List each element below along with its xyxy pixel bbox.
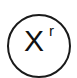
base-label: X [24,26,44,56]
exponent-label: r [49,23,54,38]
power-button[interactable]: X r [7,14,71,77]
